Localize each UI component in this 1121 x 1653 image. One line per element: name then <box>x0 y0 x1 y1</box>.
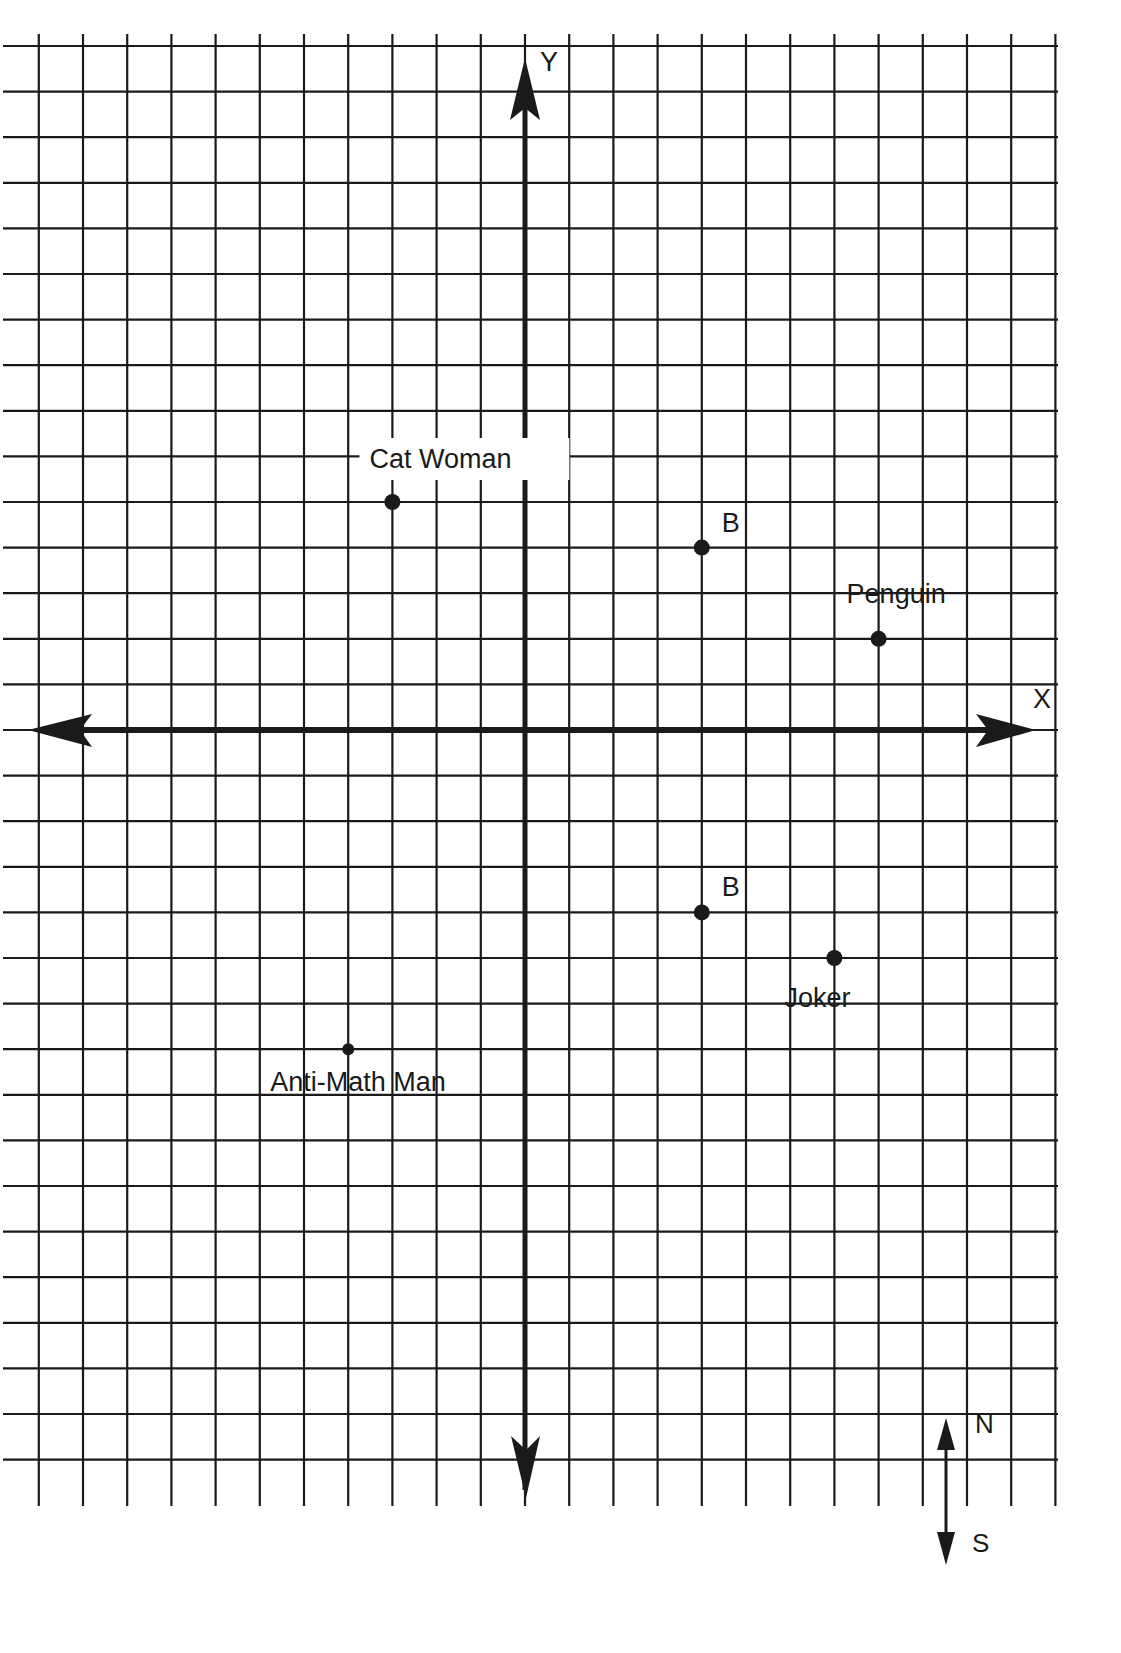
point-marker-icon <box>694 904 710 920</box>
data-point: Joker <box>784 950 850 1013</box>
x-axis-label: X <box>1033 684 1051 714</box>
point-label: Penguin <box>847 579 946 609</box>
point-label: B <box>722 872 740 902</box>
axes: XY <box>28 47 1051 1498</box>
data-point: Penguin <box>847 579 946 647</box>
compass-north-label: N <box>975 1409 994 1439</box>
point-label: Anti-Math Man <box>270 1067 446 1097</box>
data-points: Cat WomanBPenguinBJokerAnti-Math Man <box>270 438 945 1097</box>
point-label: Cat Woman <box>369 444 511 474</box>
point-marker-icon <box>384 494 400 510</box>
y-axis-label: Y <box>540 47 558 77</box>
compass: NS <box>937 1409 994 1565</box>
data-point: Cat Woman <box>359 438 569 510</box>
coordinate-plane: XY Cat WomanBPenguinBJokerAnti-Math Man … <box>0 0 1121 1653</box>
data-point: Anti-Math Man <box>270 1043 446 1097</box>
north-arrow-icon <box>937 1418 955 1450</box>
point-label: B <box>722 508 740 538</box>
point-marker-icon <box>826 950 842 966</box>
point-marker-icon <box>342 1043 354 1055</box>
grid-lines <box>3 34 1058 1506</box>
point-label: Joker <box>784 983 850 1013</box>
point-marker-icon <box>694 540 710 556</box>
south-arrow-icon <box>937 1532 955 1565</box>
point-marker-icon <box>871 631 887 647</box>
compass-south-label: S <box>972 1528 989 1558</box>
